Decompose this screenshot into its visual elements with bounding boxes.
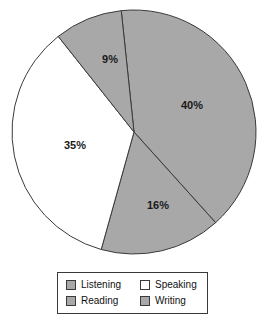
legend-label-reading: Reading	[81, 296, 118, 306]
pie-chart: 40%16%35%9% Listening Speaking Reading W…	[0, 0, 264, 323]
legend-item-listening[interactable]: Listening	[66, 277, 140, 293]
pie-slice-label-writing: 16%	[147, 199, 169, 211]
pie-slice-label-speaking: 35%	[64, 139, 86, 151]
legend-label-listening: Listening	[81, 280, 121, 290]
pie-slice-label-reading: 9%	[102, 53, 118, 65]
legend-grid: Listening Speaking Reading Writing	[66, 277, 201, 309]
legend-swatch-speaking	[140, 280, 150, 290]
legend-label-speaking: Speaking	[155, 280, 197, 290]
legend-item-writing[interactable]: Writing	[140, 293, 214, 309]
legend-label-writing: Writing	[155, 296, 186, 306]
legend-swatch-reading	[66, 296, 76, 306]
legend-swatch-writing	[140, 296, 150, 306]
chart-legend: Listening Speaking Reading Writing	[57, 272, 208, 314]
legend-item-reading[interactable]: Reading	[66, 293, 140, 309]
pie-slice-label-listening: 40%	[181, 99, 203, 111]
legend-swatch-listening	[66, 280, 76, 290]
pie-slice-group	[12, 10, 256, 254]
legend-item-speaking[interactable]: Speaking	[140, 277, 214, 293]
